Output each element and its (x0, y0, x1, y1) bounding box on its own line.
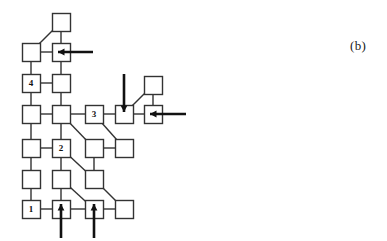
node-box (145, 77, 163, 95)
node-n_c2_r2 (53, 75, 71, 93)
node-n_c4_r4 (116, 140, 134, 158)
edge-n_c2_r0-n_c1_r1 (39, 30, 53, 44)
node-box (116, 140, 134, 158)
edge-n_c2_r3-n_c3_r4 (69, 122, 86, 140)
edge-n_c2_r5-n_c3_r6 (69, 187, 85, 202)
edge-n_c3_r3-n_c4_r4 (101, 122, 116, 139)
node-box (86, 171, 104, 189)
node-link-diagram: 4321 (0, 0, 387, 241)
node-box (23, 44, 41, 62)
node-label: 4 (29, 78, 34, 88)
edge-n_c2_r4-n_c3_r5 (69, 156, 86, 172)
node-n_c3_r5 (86, 171, 104, 189)
node-n_c1_r1 (23, 44, 41, 62)
node-box (23, 171, 41, 189)
arrow-up-left-icon (58, 204, 65, 238)
node-n_c2_r3 (53, 106, 71, 124)
node-label: 2 (59, 143, 64, 153)
node-layer: 4321 (23, 14, 163, 219)
node-box (53, 106, 71, 124)
edge-n_c5_r2-n_c4_r3 (132, 93, 145, 106)
figure-caption: (b) (350, 38, 366, 54)
node-box (53, 171, 71, 189)
node-box (86, 140, 104, 158)
node-n_c3_r4 (86, 140, 104, 158)
node-n_c1_r2: 4 (23, 75, 41, 93)
node-box (116, 201, 134, 219)
arrow-left-top-icon (58, 49, 93, 56)
node-n_c2_r5 (53, 171, 71, 189)
node-n_c5_r2 (145, 77, 163, 95)
node-n_c3_r3: 3 (86, 106, 104, 124)
node-n_c1_r4 (23, 140, 41, 158)
node-n_c1_r3 (23, 106, 41, 124)
arrow-down-mid-icon (121, 74, 128, 112)
node-n_c1_r6: 1 (23, 201, 41, 219)
node-box (23, 106, 41, 124)
node-box (53, 75, 71, 93)
node-n_c4_r6 (116, 201, 134, 219)
arrow-up-right-icon (91, 204, 98, 238)
node-n_c2_r4: 2 (53, 140, 71, 158)
node-n_c2_r0 (53, 14, 71, 32)
node-label: 3 (92, 109, 97, 119)
node-label: 1 (29, 204, 34, 214)
arrow-left-right-icon (150, 111, 186, 118)
node-box (53, 14, 71, 32)
node-n_c1_r5 (23, 171, 41, 189)
node-box (23, 140, 41, 158)
